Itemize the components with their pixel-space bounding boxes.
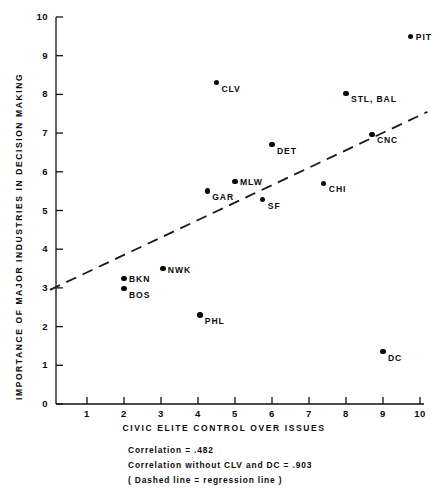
data-point-marker <box>121 286 126 291</box>
regression-line <box>50 112 427 290</box>
y-tick-label: 6 <box>26 166 48 177</box>
data-point-marker <box>160 266 165 271</box>
scatter-plot-figure: IMPORTANCE OF MAJOR INDUSTRIES IN DECISI… <box>0 0 448 493</box>
data-point-label: SF <box>268 201 281 211</box>
data-point-marker <box>269 142 274 147</box>
regression-line-group <box>50 112 427 290</box>
data-point-marker <box>121 276 126 281</box>
y-tick-label: 1 <box>26 359 48 370</box>
y-tick-label: 0 <box>26 398 48 409</box>
x-tick-label: 1 <box>76 408 98 419</box>
data-point-label: MLW <box>240 177 263 187</box>
data-point-label: BKN <box>129 274 150 284</box>
y-tick-label: 3 <box>26 282 48 293</box>
data-point-label: DET <box>277 146 297 156</box>
caption-line-dashed-legend: ( Dashed line = regression line ) <box>128 473 428 488</box>
x-axis-title: CIVIC ELITE CONTROL OVER ISSUES <box>0 423 448 433</box>
data-point-marker <box>343 91 348 96</box>
data-point-label: CHI <box>329 184 347 194</box>
x-tick-label: 4 <box>187 408 209 419</box>
y-tick-label: 4 <box>26 243 48 254</box>
data-point-marker <box>232 179 237 184</box>
data-point-label: CNC <box>377 135 398 145</box>
data-point-marker <box>205 188 210 193</box>
y-tick-label: 2 <box>26 321 48 332</box>
caption-line-correlation-without: Correlation without CLV and DC = .903 <box>128 458 428 473</box>
x-tick-label: 7 <box>298 408 320 419</box>
data-point-marker <box>369 132 374 137</box>
caption-block: Correlation = .482 Correlation without C… <box>128 443 428 488</box>
x-tick-label: 3 <box>150 408 172 419</box>
x-tick-label: 2 <box>113 408 135 419</box>
y-tick-label: 7 <box>26 127 48 138</box>
plot-canvas <box>0 0 448 493</box>
y-tick-label: 10 <box>26 11 48 22</box>
data-point-label: PHL <box>205 316 225 326</box>
x-tick-label: 8 <box>335 408 357 419</box>
y-axis-title: IMPORTANCE OF MAJOR INDUSTRIES IN DECISI… <box>14 73 24 400</box>
x-tick-label: 6 <box>261 408 283 419</box>
data-point-label: BOS <box>129 290 150 300</box>
data-point-label: GAR <box>212 192 234 202</box>
x-tick-label: 9 <box>372 408 394 419</box>
data-point-label: DC <box>388 353 402 363</box>
y-tick-label: 8 <box>26 88 48 99</box>
caption-line-correlation: Correlation = .482 <box>128 443 428 458</box>
y-tick-label: 9 <box>26 50 48 61</box>
axes-group <box>56 17 424 404</box>
data-point-label: STL, BAL <box>351 94 397 104</box>
data-point-label: NWK <box>168 265 191 275</box>
x-ticks-group <box>87 397 420 404</box>
x-tick-label: 5 <box>224 408 246 419</box>
x-tick-label: 10 <box>409 408 431 419</box>
y-tick-label: 5 <box>26 205 48 216</box>
data-point-label: PIT <box>416 32 432 42</box>
data-point-marker <box>197 312 202 317</box>
data-point-label: CLV <box>222 84 241 94</box>
y-ticks-group <box>56 17 63 404</box>
